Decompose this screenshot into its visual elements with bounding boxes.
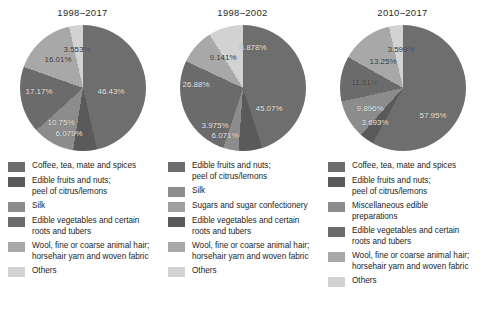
legend-item: Silk [168, 186, 323, 197]
legend-label: Wool, fine or coarse animal hair; horseh… [352, 251, 469, 272]
legend-3: Coffee, tea, mate and spicesEdible fruit… [328, 161, 483, 287]
legend-item: Edible vegetables and certain roots and … [328, 226, 483, 247]
legend-label: Others [352, 276, 377, 287]
legend-swatch [8, 242, 25, 252]
pie-chart-figure: 1998–2017 46.43%6.079%10.75%17.17%16.01%… [0, 0, 485, 322]
legend-label: Edible vegetables and certain roots and … [352, 226, 459, 247]
slice-label: 26.88% [183, 80, 210, 89]
legend-swatch [168, 187, 185, 197]
pie-wrap-1: 46.43%6.079%10.75%17.17%16.01%3.553% [20, 25, 146, 151]
legend-item: Others [328, 276, 483, 287]
legend-swatch [168, 267, 185, 277]
legend-item: Miscellaneous edible preparations [328, 201, 483, 222]
chart-title-1: 1998–2017 [2, 7, 163, 18]
legend-item: Wool, fine or coarse animal hair; horseh… [168, 241, 323, 262]
slice-label: 13.25% [370, 57, 397, 66]
legend-label: Others [32, 266, 57, 277]
legend-swatch [328, 227, 345, 237]
legend-item: Silk [8, 201, 163, 212]
legend-label: Coffee, tea, mate and spices [352, 161, 456, 172]
slice-label: 9.896% [357, 104, 384, 113]
legend-label: Silk [32, 201, 45, 212]
legend-swatch [8, 202, 25, 212]
legend-1: Coffee, tea, mate and spicesEdible fruit… [8, 161, 163, 277]
legend-label: Wool, fine or coarse animal hair; horseh… [192, 241, 309, 262]
slice-label: 45.07% [256, 104, 283, 113]
legend-item: Coffee, tea, mate and spices [328, 161, 483, 172]
legend-item: Edible fruits and nuts; peel of citrus/l… [328, 176, 483, 197]
slice-label: 46.43% [98, 87, 125, 96]
legend-label: Silk [192, 186, 205, 197]
legend-item: Coffee, tea, mate and spices [8, 161, 163, 172]
legend-item: Sugars and sugar confectionery [168, 201, 323, 212]
legend-label: Others [192, 266, 217, 277]
chart-panel-1: 1998–2017 46.43%6.079%10.75%17.17%16.01%… [2, 0, 163, 322]
legend-swatch [8, 162, 25, 172]
legend-swatch [328, 162, 345, 172]
legend-swatch [328, 202, 345, 212]
legend-swatch [328, 252, 345, 262]
legend-item: Edible fruits and nuts; peel of citrus/l… [168, 161, 323, 182]
legend-item: Edible vegetables and certain roots and … [168, 216, 323, 237]
legend-item: Others [8, 266, 163, 277]
slice-label: 3.553% [64, 45, 91, 54]
legend-item: Edible vegetables and certain roots and … [8, 216, 163, 237]
legend-label: Edible vegetables and certain roots and … [32, 216, 139, 237]
slice-label: 3.599% [388, 45, 415, 54]
legend-2: Edible fruits and nuts; peel of citrus/l… [168, 161, 323, 277]
legend-label: Edible vegetables and certain roots and … [192, 216, 299, 237]
slice-label: 17.17% [26, 87, 53, 96]
chart-panel-3: 2010–2017 57.95%3.693%9.896%11.61%13.25%… [322, 0, 483, 322]
slice-label: 6.071% [212, 131, 239, 140]
slice-label: 6.079% [56, 129, 83, 138]
legend-swatch [168, 242, 185, 252]
slice-label: 3.975% [202, 121, 229, 130]
slice-label: 11.61% [352, 78, 379, 87]
legend-swatch [8, 177, 25, 187]
legend-swatch [168, 217, 185, 227]
legend-swatch [8, 217, 25, 227]
legend-label: Wool, fine or coarse animal hair; horseh… [32, 241, 149, 262]
slice-label: 16.01% [45, 55, 72, 64]
legend-label: Edible fruits and nuts; peel of citrus/l… [192, 161, 271, 182]
legend-item: Others [168, 266, 323, 277]
pie-wrap-2: 45.07%6.071%3.975%26.88%9.141%8.878% [180, 25, 306, 151]
legend-label: Coffee, tea, mate and spices [32, 161, 136, 172]
slice-label: 57.95% [420, 111, 447, 120]
legend-swatch [8, 267, 25, 277]
legend-label: Edible fruits and nuts; peel of citrus/l… [352, 176, 431, 197]
legend-item: Wool, fine or coarse animal hair; horseh… [8, 241, 163, 262]
legend-label: Edible fruits and nuts; peel of citrus/l… [32, 176, 111, 197]
slice-label: 8.878% [240, 43, 267, 52]
chart-title-3: 2010–2017 [322, 7, 483, 18]
pie-chart-3 [340, 25, 466, 151]
legend-item: Edible fruits and nuts; peel of citrus/l… [8, 176, 163, 197]
legend-swatch [328, 177, 345, 187]
slice-label: 9.141% [210, 53, 237, 62]
legend-label: Miscellaneous edible preparations [352, 201, 428, 222]
legend-label: Sugars and sugar confectionery [192, 201, 308, 212]
legend-swatch [168, 202, 185, 212]
legend-swatch [168, 162, 185, 172]
chart-title-2: 1998–2002 [162, 7, 323, 18]
slice-label: 3.693% [362, 118, 389, 127]
chart-panel-2: 1998–2002 45.07%6.071%3.975%26.88%9.141%… [162, 0, 323, 322]
legend-item: Wool, fine or coarse animal hair; horseh… [328, 251, 483, 272]
legend-swatch [328, 277, 345, 287]
pie-wrap-3: 57.95%3.693%9.896%11.61%13.25%3.599% [340, 25, 466, 151]
slice-label: 10.75% [48, 118, 75, 127]
